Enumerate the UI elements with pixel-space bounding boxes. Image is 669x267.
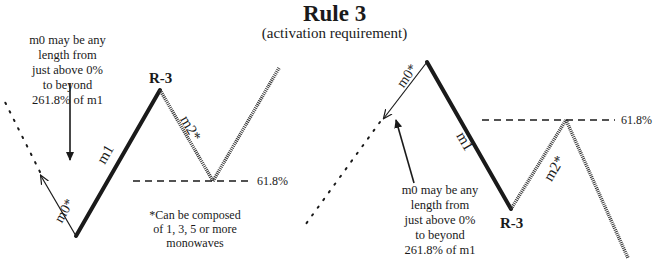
footnote-line: monowaves (135, 236, 255, 250)
left-rise-line (213, 68, 279, 181)
note-line: to beyond (385, 228, 495, 243)
note-line: 261.8% of m1 (10, 93, 125, 108)
right-retrace-label: 61.8% (621, 113, 652, 128)
note-line: m0 may be any (10, 33, 125, 48)
right-r3-label: R-3 (500, 215, 523, 232)
note-line: just above 0% (385, 213, 495, 228)
right-m0-note: m0 may be any length from just above 0% … (385, 183, 495, 258)
right-m0-dotted-extension (303, 122, 380, 228)
left-m0-note: m0 may be any length from just above 0% … (10, 33, 125, 108)
note-line: to beyond (10, 78, 125, 93)
left-retrace-label: 61.8% (257, 174, 288, 189)
note-line: m0 may be any (385, 183, 495, 198)
left-r3-label: R-3 (149, 70, 172, 87)
right-fall-line (566, 120, 628, 258)
footnote-line: of 1, 3, 5 or more (135, 222, 255, 236)
left-footnote: *Can be composed of 1, 3, 5 or more mono… (135, 208, 255, 250)
right-note-arrow (396, 120, 414, 183)
footnote-line: *Can be composed (135, 208, 255, 222)
note-line: length from (385, 198, 495, 213)
note-line: length from (10, 48, 125, 63)
note-line: just above 0% (10, 63, 125, 78)
note-line: 261.8% of m1 (385, 243, 495, 258)
